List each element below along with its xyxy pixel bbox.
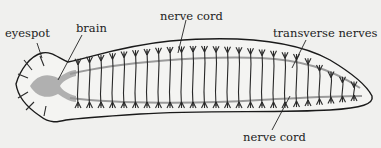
planarian-diagram: eyespot brain nerve cord transverse nerv… xyxy=(0,0,381,148)
label-brain: brain xyxy=(76,23,107,35)
label-eyespot: eyespot xyxy=(5,28,50,40)
label-transverse-nerves: transverse nerves xyxy=(273,28,377,40)
label-nerve-cord-top: nerve cord xyxy=(160,11,223,23)
label-nerve-cord-bottom: nerve cord xyxy=(243,132,306,144)
body-outline xyxy=(16,39,372,122)
